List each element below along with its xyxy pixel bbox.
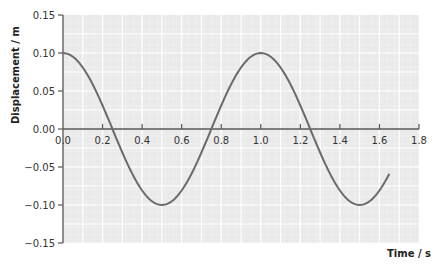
x-tick-label: 0.8 — [213, 135, 229, 146]
x-axis-label: Time / s — [387, 248, 431, 259]
plot-area — [0, 0, 436, 266]
displacement-time-chart: 0.150.100.050.00−0.05−0.10−0.15 0.00.20.… — [0, 0, 436, 266]
x-tick-label: 0.4 — [134, 135, 150, 146]
y-tick-label: −0.10 — [5, 200, 55, 211]
x-tick-label: 0.0 — [55, 135, 71, 146]
x-tick-label: 1.4 — [332, 135, 348, 146]
y-tick-label: −0.15 — [5, 238, 55, 249]
y-axis-label: Displacement / m — [10, 26, 21, 124]
x-tick-label: 1.6 — [371, 135, 387, 146]
x-tick-label: 0.2 — [95, 135, 111, 146]
x-tick-label: 0.6 — [174, 135, 190, 146]
x-tick-label: 1.0 — [253, 135, 269, 146]
y-tick-label: −0.05 — [5, 162, 55, 173]
x-tick-label: 1.8 — [411, 135, 427, 146]
y-tick-label: 0.00 — [5, 124, 55, 135]
x-tick-label: 1.2 — [292, 135, 308, 146]
y-tick-label: 0.15 — [5, 10, 55, 21]
